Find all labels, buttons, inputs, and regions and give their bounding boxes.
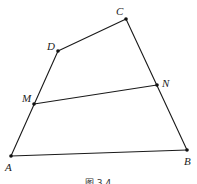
label-A: A — [4, 161, 12, 173]
label-D: D — [46, 40, 55, 52]
label-B: B — [184, 155, 191, 167]
point-M — [32, 102, 36, 106]
figure-caption: 图 3.4 — [85, 178, 111, 184]
point-C — [124, 17, 128, 21]
quadrilateral-diagram: A B C D M N 图 3.4 — [0, 0, 197, 184]
point-D — [56, 49, 60, 53]
segment-CD — [58, 19, 126, 51]
label-M: M — [21, 92, 32, 104]
label-C: C — [116, 5, 124, 17]
label-N: N — [161, 77, 170, 89]
segment-AB — [11, 150, 187, 156]
point-N — [155, 83, 159, 87]
segment-MN — [34, 85, 157, 104]
point-A — [9, 154, 13, 158]
point-B — [185, 148, 189, 152]
